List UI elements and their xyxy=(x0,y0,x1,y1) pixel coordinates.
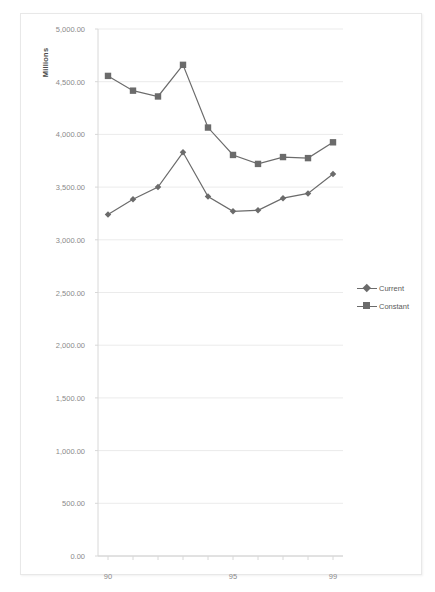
y-tick-label-5000: 5,000.00 xyxy=(27,25,85,34)
x-tick-label-99: 99 xyxy=(329,572,337,581)
legend-label-constant: Constant xyxy=(379,302,409,311)
data-point-constant-97[interactable] xyxy=(280,154,286,160)
legend-label-current: Current xyxy=(379,284,404,293)
x-tick-label-90: 90 xyxy=(104,572,112,581)
plot-area: Millions 0.00500.001,000.001,500.002,000… xyxy=(21,14,423,576)
data-point-current-91[interactable] xyxy=(130,196,137,203)
data-point-current-95[interactable] xyxy=(230,208,237,215)
y-axis-tick-labels: 0.00500.001,000.001,500.002,000.002,500.… xyxy=(27,14,85,576)
data-point-constant-96[interactable] xyxy=(255,161,261,167)
data-point-constant-94[interactable] xyxy=(205,124,211,130)
data-point-constant-95[interactable] xyxy=(230,152,236,158)
data-point-current-94[interactable] xyxy=(205,193,212,200)
data-point-constant-92[interactable] xyxy=(155,93,161,99)
chart-container: Millions 0.00500.001,000.001,500.002,000… xyxy=(20,13,422,575)
y-tick-label-4500: 4,500.00 xyxy=(27,77,85,86)
series-line-current xyxy=(108,152,333,214)
legend-marker-current-icon xyxy=(357,283,377,293)
data-point-constant-99[interactable] xyxy=(330,139,336,145)
y-tick-label-2500: 2,500.00 xyxy=(27,288,85,297)
y-tick-label-1000: 1,000.00 xyxy=(27,446,85,455)
y-tick-label-500: 500.00 xyxy=(27,499,85,508)
y-tick-label-3000: 3,000.00 xyxy=(27,235,85,244)
y-tick-label-0: 0.00 xyxy=(27,552,85,561)
data-point-constant-93[interactable] xyxy=(180,62,186,68)
data-point-current-97[interactable] xyxy=(280,195,287,202)
x-axis-tick-labels: 909599 xyxy=(21,572,423,586)
legend-item-constant[interactable]: Constant xyxy=(357,297,423,315)
x-tick-label-95: 95 xyxy=(229,572,237,581)
data-point-constant-98[interactable] xyxy=(305,155,311,161)
y-tick-label-4000: 4,000.00 xyxy=(27,130,85,139)
gridlines-group xyxy=(95,29,343,556)
data-point-current-96[interactable] xyxy=(255,207,262,214)
data-series-group xyxy=(105,62,337,218)
chart-legend: Current Constant xyxy=(357,279,423,315)
legend-item-current[interactable]: Current xyxy=(357,279,423,297)
legend-marker-constant-icon xyxy=(357,301,377,311)
y-tick-label-3500: 3,500.00 xyxy=(27,183,85,192)
y-tick-label-2000: 2,000.00 xyxy=(27,341,85,350)
data-point-constant-90[interactable] xyxy=(105,73,111,79)
x-axis-ticks-group xyxy=(108,556,333,560)
data-point-current-90[interactable] xyxy=(105,211,112,218)
data-point-constant-91[interactable] xyxy=(130,87,136,93)
y-tick-label-1500: 1,500.00 xyxy=(27,393,85,402)
series-line-constant xyxy=(108,65,333,164)
